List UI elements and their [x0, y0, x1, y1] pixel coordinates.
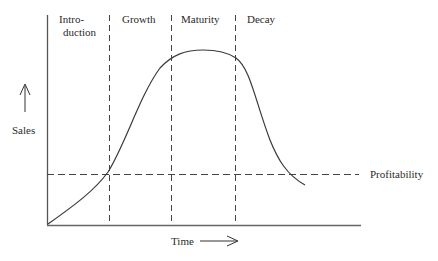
stage-label-maturity: Maturity	[181, 13, 220, 25]
sales-label: Sales	[12, 124, 35, 136]
stage-label-introduction-line2: duction	[63, 26, 96, 38]
stage-label-introduction: Intro-	[59, 13, 84, 25]
profitability-label: Profitability	[370, 168, 424, 180]
sales-curve	[48, 50, 305, 224]
stage-label-growth: Growth	[122, 13, 156, 25]
time-label: Time	[171, 235, 194, 247]
product-life-cycle-diagram: Intro- duction Growth Maturity Decay Sal…	[0, 0, 438, 261]
stage-label-decay: Decay	[247, 13, 276, 25]
